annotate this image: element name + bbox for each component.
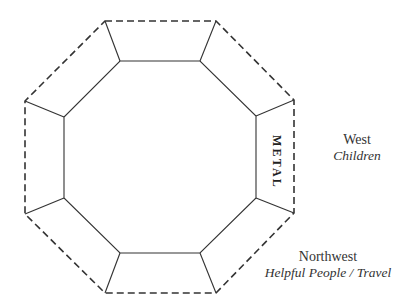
inner-octagon: [64, 61, 256, 253]
west-meaning: Children: [322, 148, 392, 164]
outer-octagon-dashed: [25, 21, 294, 293]
segment-dividers: [25, 21, 294, 293]
northwest-meaning: Helpful People / Travel: [258, 265, 398, 281]
label-northwest: Northwest Helpful People / Travel: [258, 249, 398, 281]
label-west: West Children: [322, 132, 392, 164]
west-direction: West: [322, 132, 392, 148]
metal-text: METAL: [269, 135, 284, 189]
northwest-direction: Northwest: [258, 249, 398, 265]
segment-label-metal: METAL: [268, 130, 284, 194]
